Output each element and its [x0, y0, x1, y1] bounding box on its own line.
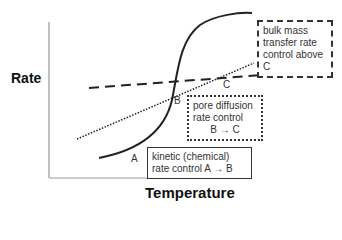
point-b-label: B [174, 95, 181, 107]
bulk-line-2: transfer rate [263, 37, 327, 49]
bulk-mass-transfer-box: bulk mass transfer rate control above C [257, 20, 333, 78]
point-c-label: C [223, 79, 230, 91]
pore-line-3: B → C [193, 124, 257, 136]
kinetic-line-2: rate control A → B [152, 163, 247, 175]
y-axis-label: Rate [11, 70, 41, 86]
point-a-label: A [131, 153, 138, 165]
pore-line-2: rate control [193, 112, 257, 124]
pore-diffusion-box: pore diffusion rate control B → C [187, 95, 263, 141]
bulk-line-3: control above C [263, 49, 327, 73]
pore-line-1: pore diffusion [193, 100, 257, 112]
kinetic-control-box: kinetic (chemical) rate control A → B [147, 147, 252, 179]
bulk-line-1: bulk mass [263, 25, 327, 37]
kinetic-line-1: kinetic (chemical) [152, 151, 247, 163]
x-axis-label: Temperature [145, 184, 235, 201]
